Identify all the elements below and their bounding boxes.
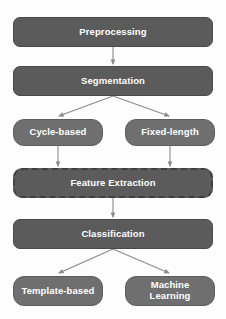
node-fixed-length[interactable]: Fixed-length [125, 119, 215, 146]
edge-classification-machine-learning [113, 249, 169, 273]
node-classification-label: Classification [77, 229, 148, 240]
node-preprocessing-label: Preprocessing [75, 27, 150, 38]
node-cycle-based-label: Cycle-based [25, 127, 90, 138]
flowchart-canvas: Preprocessing Segmentation Cycle-based F… [0, 0, 226, 319]
node-feature-extraction[interactable]: Feature Extraction [13, 168, 213, 198]
edge-classification-template-based [59, 249, 113, 273]
edge-layer [0, 0, 226, 319]
node-template-based[interactable]: Template-based [13, 276, 103, 306]
node-classification[interactable]: Classification [13, 219, 213, 249]
node-segmentation-label: Segmentation [77, 76, 149, 87]
node-preprocessing[interactable]: Preprocessing [13, 17, 213, 47]
node-machine-learning[interactable]: Machine Learning [125, 276, 215, 306]
edge-segmentation-fixed-length [113, 96, 169, 116]
node-feature-extraction-label: Feature Extraction [66, 178, 159, 189]
node-fixed-length-label: Fixed-length [137, 127, 203, 138]
node-template-based-label: Template-based [17, 286, 98, 297]
node-segmentation[interactable]: Segmentation [13, 66, 213, 96]
node-cycle-based[interactable]: Cycle-based [13, 119, 103, 146]
edge-segmentation-cycle-based [59, 96, 113, 116]
node-machine-learning-label: Machine Learning [146, 280, 195, 302]
